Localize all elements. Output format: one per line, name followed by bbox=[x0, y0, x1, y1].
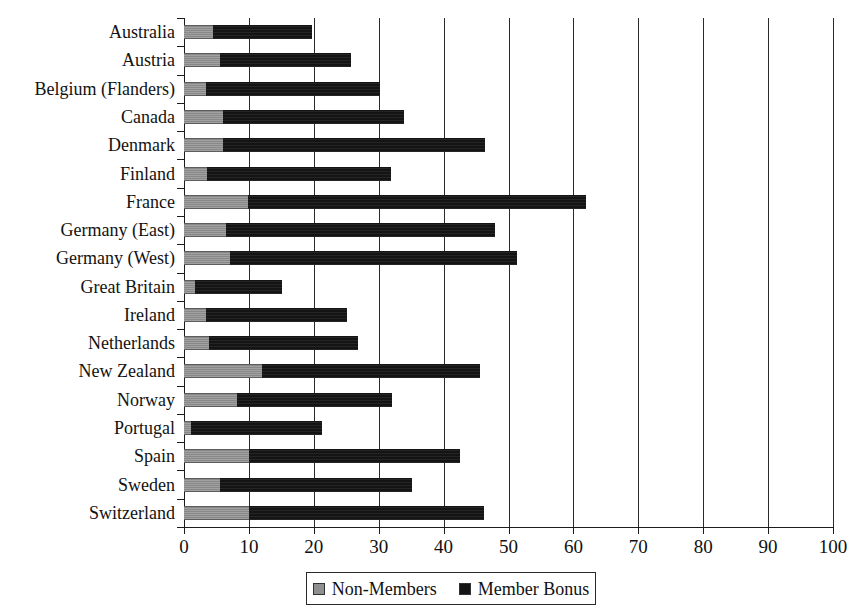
y-axis-tick bbox=[177, 244, 184, 245]
category-label: Sweden bbox=[0, 475, 175, 495]
x-axis-tick-label: 70 bbox=[608, 535, 668, 559]
y-axis-tick bbox=[177, 46, 184, 47]
x-axis-tick bbox=[573, 528, 574, 534]
bar-segment-member-bonus bbox=[213, 25, 312, 39]
bar-segment-member-bonus bbox=[230, 251, 517, 265]
bar-row bbox=[184, 82, 833, 96]
bar-row bbox=[184, 53, 833, 67]
category-label: Portugal bbox=[0, 418, 175, 438]
category-label: France bbox=[0, 192, 175, 212]
y-axis-tick bbox=[177, 470, 184, 471]
x-axis-tick-label: 20 bbox=[284, 535, 344, 559]
bar-segment-nonmembers bbox=[184, 25, 213, 39]
bar-segment-member-bonus bbox=[220, 478, 412, 492]
x-axis-tick bbox=[703, 528, 704, 534]
bar-segment-member-bonus bbox=[249, 506, 484, 520]
category-label: Switzerland bbox=[0, 503, 175, 523]
bar-segment-member-bonus bbox=[209, 336, 358, 350]
bar-chart: AustraliaAustriaBelgium (Flanders)Canada… bbox=[0, 0, 852, 614]
category-label: Austria bbox=[0, 50, 175, 70]
bar-segment-nonmembers bbox=[184, 308, 206, 322]
bar-row bbox=[184, 478, 833, 492]
y-axis-tick bbox=[177, 442, 184, 443]
bar-row bbox=[184, 138, 833, 152]
category-label: Canada bbox=[0, 107, 175, 127]
chart-title bbox=[0, 0, 852, 3]
category-label: Germany (East) bbox=[0, 220, 175, 240]
bar-row bbox=[184, 506, 833, 520]
category-label: Netherlands bbox=[0, 333, 175, 353]
category-label: Great Britain bbox=[0, 277, 175, 297]
x-axis-tick-label: 100 bbox=[803, 535, 852, 559]
y-axis-tick bbox=[177, 301, 184, 302]
bar-segment-nonmembers bbox=[184, 53, 220, 67]
bar-segment-nonmembers bbox=[184, 478, 220, 492]
category-label: New Zealand bbox=[0, 361, 175, 381]
bar-row bbox=[184, 449, 833, 463]
x-axis-tick-label: 0 bbox=[154, 535, 214, 559]
legend-swatch-nonmembers-icon bbox=[313, 583, 325, 595]
bar-segment-member-bonus bbox=[223, 138, 485, 152]
bar-segment-nonmembers bbox=[184, 138, 223, 152]
x-axis-tick bbox=[638, 528, 639, 534]
legend-label-member-bonus: Member Bonus bbox=[478, 580, 590, 598]
x-axis-tick bbox=[509, 528, 510, 534]
category-label: Ireland bbox=[0, 305, 175, 325]
x-axis-tick-label: 80 bbox=[673, 535, 733, 559]
category-label: Belgium (Flanders) bbox=[0, 79, 175, 99]
y-axis-tick bbox=[177, 131, 184, 132]
legend-label-nonmembers: Non-Members bbox=[332, 580, 437, 598]
x-axis-tick-label: 90 bbox=[738, 535, 798, 559]
bar-segment-member-bonus bbox=[195, 280, 282, 294]
category-label: Australia bbox=[0, 22, 175, 42]
legend-swatch-member-bonus-icon bbox=[459, 583, 471, 595]
bar-row bbox=[184, 251, 833, 265]
y-axis-tick bbox=[177, 386, 184, 387]
bar-segment-member-bonus bbox=[237, 393, 392, 407]
y-axis-tick bbox=[177, 329, 184, 330]
x-axis-tick-label: 50 bbox=[479, 535, 539, 559]
category-label: Denmark bbox=[0, 135, 175, 155]
category-label: Spain bbox=[0, 446, 175, 466]
x-axis-tick bbox=[249, 528, 250, 534]
x-axis-tick-label: 40 bbox=[414, 535, 474, 559]
y-axis-tick bbox=[177, 357, 184, 358]
bar-segment-nonmembers bbox=[184, 336, 209, 350]
y-axis-tick bbox=[177, 527, 184, 528]
bar-segment-nonmembers bbox=[184, 110, 223, 124]
bar-row bbox=[184, 393, 833, 407]
x-axis-tick bbox=[184, 528, 185, 534]
legend-item: Member Bonus bbox=[459, 580, 590, 598]
x-axis-tick-label: 30 bbox=[349, 535, 409, 559]
bar-segment-member-bonus bbox=[220, 53, 351, 67]
x-axis-tick bbox=[768, 528, 769, 534]
x-axis-tick-label: 60 bbox=[543, 535, 603, 559]
y-axis-tick bbox=[177, 499, 184, 500]
bar-segment-member-bonus bbox=[248, 195, 585, 209]
x-axis-tick bbox=[444, 528, 445, 534]
plot-area bbox=[184, 18, 833, 527]
y-axis-tick bbox=[177, 75, 184, 76]
bar-segment-member-bonus bbox=[249, 449, 460, 463]
bar-segment-nonmembers bbox=[184, 421, 191, 435]
category-label: Norway bbox=[0, 390, 175, 410]
x-axis-tick bbox=[833, 528, 834, 534]
bar-segment-nonmembers bbox=[184, 364, 262, 378]
bar-segment-nonmembers bbox=[184, 449, 249, 463]
y-axis-tick bbox=[177, 216, 184, 217]
category-label: Germany (West) bbox=[0, 248, 175, 268]
bar-segment-member-bonus bbox=[223, 110, 404, 124]
bar-row bbox=[184, 223, 833, 237]
bar-segment-nonmembers bbox=[184, 82, 206, 96]
y-axis-tick bbox=[177, 103, 184, 104]
bar-segment-member-bonus bbox=[206, 82, 380, 96]
bar-segment-nonmembers bbox=[184, 195, 248, 209]
category-label: Finland bbox=[0, 164, 175, 184]
bar-segment-nonmembers bbox=[184, 223, 226, 237]
x-axis-tick bbox=[314, 528, 315, 534]
bar-row bbox=[184, 336, 833, 350]
y-axis-tick bbox=[177, 414, 184, 415]
legend-item: Non-Members bbox=[313, 580, 437, 598]
y-axis-tick bbox=[177, 159, 184, 160]
bar-segment-member-bonus bbox=[226, 223, 495, 237]
